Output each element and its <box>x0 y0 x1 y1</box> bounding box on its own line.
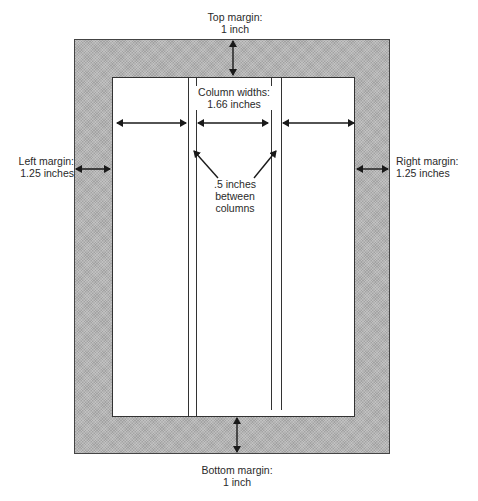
gutter-pointer-right-icon <box>254 151 276 178</box>
gutter-pointer-left-icon <box>194 151 218 178</box>
dimension-arrows <box>0 0 478 501</box>
